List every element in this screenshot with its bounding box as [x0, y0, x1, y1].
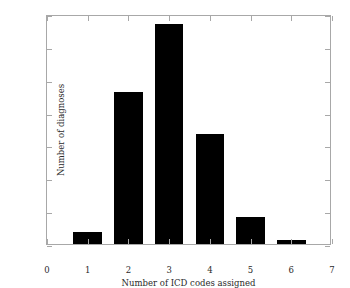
- y-tick-mark: [47, 246, 52, 247]
- x-tick-label: 2: [126, 266, 131, 275]
- y-tick-mark: [47, 180, 52, 181]
- x-tick-label: 6: [289, 266, 294, 275]
- x-axis-title: Number of ICD codes assigned: [47, 278, 330, 288]
- x-tick-mark-top: [169, 16, 170, 21]
- bar: [114, 92, 143, 244]
- x-tick-mark: [251, 239, 252, 244]
- x-tick-label: 3: [166, 266, 171, 275]
- x-tick-mark-top: [128, 16, 129, 21]
- y-tick-mark: [47, 115, 52, 116]
- x-tick-mark-top: [47, 16, 48, 21]
- y-tick-mark-right: [325, 147, 330, 148]
- bar-series: [47, 16, 330, 244]
- y-axis-title: Number of diagnoses: [56, 30, 66, 230]
- y-tick-mark-right: [325, 49, 330, 50]
- y-tick-mark-right: [325, 246, 330, 247]
- plot-area: 050100150200250300350 01234567 Number of…: [46, 15, 331, 245]
- x-tick-mark: [88, 239, 89, 244]
- x-tick-label: 0: [44, 266, 49, 275]
- y-tick-mark-right: [325, 213, 330, 214]
- x-tick-mark: [210, 239, 211, 244]
- y-tick-mark: [47, 147, 52, 148]
- x-tick-mark-top: [251, 16, 252, 21]
- y-tick-mark-right: [325, 82, 330, 83]
- x-tick-mark: [128, 239, 129, 244]
- x-tick-label: 1: [85, 266, 90, 275]
- x-tick-mark: [291, 239, 292, 244]
- y-tick-mark-right: [325, 115, 330, 116]
- x-tick-mark: [169, 239, 170, 244]
- y-tick-mark-right: [325, 180, 330, 181]
- x-tick-label: 4: [207, 266, 212, 275]
- y-tick-mark: [47, 82, 52, 83]
- x-tick-mark-top: [291, 16, 292, 21]
- x-tick-mark: [332, 239, 333, 244]
- x-tick-label: 5: [248, 266, 253, 275]
- x-tick-mark-top: [210, 16, 211, 21]
- y-tick-mark: [47, 49, 52, 50]
- y-tick-mark-right: [325, 16, 330, 17]
- x-tick-mark-top: [332, 16, 333, 21]
- bar: [196, 134, 225, 244]
- y-tick-mark: [47, 213, 52, 214]
- bar: [155, 24, 184, 244]
- x-tick-label: 7: [329, 266, 334, 275]
- x-tick-mark: [47, 239, 48, 244]
- x-tick-mark-top: [88, 16, 89, 21]
